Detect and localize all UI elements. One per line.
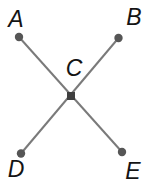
point-A-label: A	[6, 6, 23, 32]
point-C-label: C	[66, 55, 83, 81]
point-A-dot	[15, 33, 23, 41]
point-E-label: E	[125, 158, 141, 184]
diagram-svg: ABCDE	[0, 0, 158, 195]
point-D-label: D	[8, 156, 25, 182]
point-B-dot	[114, 34, 122, 42]
point-C-dot	[67, 92, 75, 100]
point-E-dot	[118, 148, 126, 156]
point-B-label: B	[126, 4, 141, 30]
geometry-diagram: ABCDE	[0, 0, 158, 195]
